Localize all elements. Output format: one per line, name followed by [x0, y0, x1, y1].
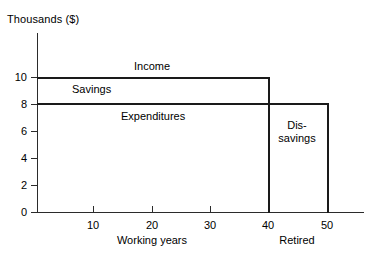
x-tick-30: [210, 206, 211, 212]
dissavings-label: Dis- savings: [268, 119, 326, 144]
dissavings-label-line1: Dis-: [287, 119, 307, 131]
y-tick-4: [31, 158, 37, 159]
y-tick-label-6: 6: [3, 126, 27, 137]
y-tick-label-2: 2: [3, 180, 27, 191]
x-tick-10: [93, 206, 94, 212]
y-tick-label-10: 10: [3, 72, 27, 83]
expenditures-line-vertical-drop: [327, 103, 329, 213]
savings-dissavings-chart: Thousands ($) 0 2 4 6 8 10 10 20 30 40 5…: [0, 0, 380, 258]
x-tick-label-40: 40: [253, 220, 283, 231]
y-tick-6: [31, 131, 37, 132]
x-tick-label-20: 20: [137, 220, 167, 231]
expenditures-line-horizontal: [37, 103, 329, 105]
x-tick-label-50: 50: [312, 220, 342, 231]
x-tick-label-30: 30: [195, 220, 225, 231]
y-tick-label-0: 0: [3, 207, 27, 218]
y-axis-line: [37, 33, 38, 213]
retired-label: Retired: [258, 235, 336, 246]
working-years-label: Working years: [102, 235, 202, 246]
expenditures-label: Expenditures: [121, 110, 185, 122]
x-axis-line: [37, 212, 364, 213]
x-tick-label-10: 10: [78, 220, 108, 231]
dissavings-label-line2: savings: [278, 132, 315, 144]
income-line-horizontal: [37, 77, 270, 79]
income-label: Income: [134, 60, 170, 72]
savings-label: Savings: [72, 83, 111, 95]
x-tick-20: [152, 206, 153, 212]
y-tick-2: [31, 185, 37, 186]
income-line-vertical-drop: [268, 77, 270, 213]
y-tick-label-8: 8: [3, 99, 27, 110]
y-axis-title: Thousands ($): [7, 13, 79, 26]
y-tick-label-4: 4: [3, 153, 27, 164]
y-tick-0: [31, 212, 37, 213]
